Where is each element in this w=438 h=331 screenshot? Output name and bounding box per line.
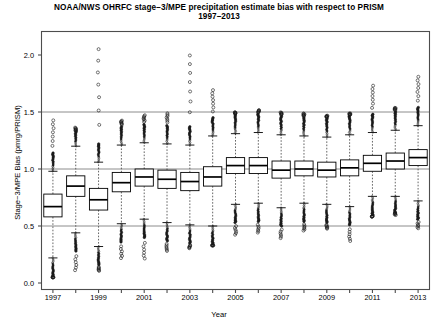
outlier-point — [211, 89, 214, 92]
outlier-point — [189, 100, 192, 103]
outlier-point — [188, 63, 191, 66]
y-tick-label: 2.0 — [8, 51, 34, 60]
outlier-point — [212, 106, 215, 109]
outlier-point — [51, 144, 54, 147]
outlier-point — [96, 71, 99, 74]
x-tick-label: 2007 — [261, 293, 301, 302]
outlier-point — [417, 95, 420, 98]
y-tick-label: 0.0 — [8, 279, 34, 288]
x-tick-label: 2005 — [216, 293, 256, 302]
boxplot-group-2006 — [249, 109, 267, 234]
outlier-point — [75, 255, 78, 258]
outlier-point — [371, 91, 374, 94]
outlier-point — [143, 241, 146, 244]
outlier-point — [371, 88, 374, 91]
chart-title-block: NOAA/NWS OHRFC stage−3/MPE precipitation… — [0, 3, 438, 22]
outlier-point — [142, 245, 145, 248]
outlier-point — [416, 90, 419, 93]
outlier-point — [97, 59, 100, 62]
outlier-point — [51, 140, 54, 143]
outlier-point — [211, 92, 214, 95]
outlier-point — [371, 98, 374, 101]
outlier-point — [52, 119, 55, 122]
chart-subtitle: 1997–2013 — [0, 12, 438, 21]
outlier-point — [372, 84, 375, 87]
outlier-point — [189, 90, 192, 93]
outlier-point — [280, 225, 283, 228]
boxplot-group-2001 — [135, 114, 153, 260]
outlier-point — [212, 102, 215, 105]
outlier-point — [416, 79, 419, 82]
y-axis-tick-labels: 0.00.51.01.52.0 — [8, 0, 34, 331]
boxplot-group-2007 — [272, 111, 290, 240]
boxplot-group-2005 — [226, 111, 244, 236]
boxplot-group-1999 — [89, 48, 107, 273]
outlier-point — [188, 54, 191, 57]
outlier-point — [416, 99, 419, 102]
outlier-point — [417, 75, 420, 78]
outlier-point — [120, 241, 123, 244]
outlier-point — [211, 95, 214, 98]
outlier-point — [74, 258, 77, 261]
boxplot-group-2012 — [386, 106, 404, 216]
outlier-point — [52, 127, 55, 130]
outlier-point — [97, 83, 100, 86]
outlier-point — [189, 71, 192, 74]
boxplot-group-2010 — [340, 112, 358, 243]
outlier-point — [143, 251, 146, 254]
y-tick-label: 1.0 — [8, 165, 34, 174]
outlier-point — [143, 236, 146, 239]
outlier-point — [98, 123, 101, 126]
outlier-point — [97, 109, 100, 112]
boxplot-group-2008 — [295, 112, 313, 232]
outlier-point — [371, 95, 374, 98]
outlier-point — [348, 224, 351, 227]
boxplot-group-2002 — [158, 112, 176, 253]
x-tick-label: 2009 — [307, 293, 347, 302]
outlier-point — [349, 240, 352, 243]
outlier-point — [417, 86, 420, 89]
outlier-point — [98, 96, 101, 99]
x-tick-label: 2001 — [124, 293, 164, 302]
outlier-point — [371, 106, 374, 109]
outlier-point — [416, 218, 419, 221]
y-tick-label: 1.5 — [8, 108, 34, 117]
outlier-point — [371, 102, 374, 105]
outlier-point — [143, 257, 146, 260]
outlier-point — [234, 221, 237, 224]
x-tick-label: 1997 — [33, 293, 73, 302]
x-axis-label: Year — [0, 310, 438, 319]
outlier-point — [51, 131, 54, 134]
outlier-point — [51, 135, 54, 138]
boxplot-group-2000 — [112, 119, 130, 260]
outlier-point — [257, 220, 260, 223]
box-iqr — [44, 194, 62, 217]
outlier-point — [142, 254, 145, 257]
outlier-point — [97, 48, 100, 51]
plot-area — [0, 0, 438, 331]
boxplot-group-2009 — [318, 114, 336, 230]
outlier-point — [75, 250, 78, 253]
outlier-point — [188, 81, 191, 84]
boxplot-group-2013 — [409, 75, 427, 230]
boxplot-group-2003 — [181, 54, 199, 250]
boxplot-group-2011 — [363, 84, 381, 218]
outlier-point — [417, 83, 420, 86]
boxplot-group-1997 — [44, 119, 62, 279]
x-tick-label: 1999 — [79, 293, 119, 302]
outlier-point — [166, 240, 169, 243]
boxplot-figure: NOAA/NWS OHRFC stage−3/MPE precipitation… — [0, 0, 438, 331]
outlier-point — [211, 110, 214, 113]
boxplot-group-1998 — [67, 126, 85, 272]
x-tick-label: 2003 — [170, 293, 210, 302]
y-tick-label: 0.5 — [8, 222, 34, 231]
x-tick-label: 2013 — [398, 293, 438, 302]
outlier-point — [212, 99, 215, 102]
outlier-point — [143, 248, 146, 251]
chart-title: NOAA/NWS OHRFC stage−3/MPE precipitation… — [0, 3, 438, 12]
x-tick-label: 2011 — [352, 293, 392, 302]
outlier-point — [303, 220, 306, 223]
outlier-point — [51, 123, 54, 126]
